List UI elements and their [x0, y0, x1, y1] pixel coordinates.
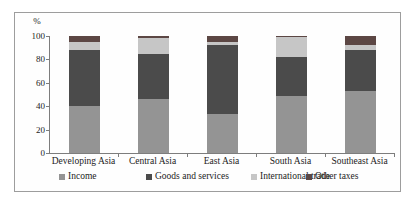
- segment-south-asia-income: [276, 96, 307, 153]
- legend-label-other-taxes: Other taxes: [315, 171, 359, 182]
- segment-east-asia-income: [207, 114, 238, 153]
- legend: IncomeGoods and servicesInternational tr…: [15, 171, 400, 187]
- legend-marker-income: [59, 174, 65, 180]
- bar-developing-asia: [69, 36, 100, 153]
- y-tick-label-40: 40: [19, 101, 45, 111]
- x-axis-label-developing-asia: Developing Asia: [49, 156, 118, 167]
- bar-slot-east-asia: [188, 36, 257, 153]
- x-tick-mark: [394, 154, 395, 157]
- legend-item-other-taxes: Other taxes: [306, 171, 359, 182]
- bar-slot-central-asia: [119, 36, 188, 153]
- bar-slot-developing-asia: [50, 36, 119, 153]
- segment-developing-asia-goods-and-services: [69, 50, 100, 106]
- y-axis-unit-label: %: [29, 16, 45, 26]
- x-axis-label-east-asia: East Asia: [187, 156, 256, 167]
- segment-southeast-asia-income: [345, 91, 376, 153]
- segment-southeast-asia-goods-and-services: [345, 50, 376, 91]
- y-tick-label-80: 80: [19, 54, 45, 64]
- x-axis-labels: Developing AsiaCentral AsiaEast AsiaSout…: [49, 156, 394, 167]
- chart-frame: % 020406080100 Developing AsiaCentral As…: [14, 12, 401, 192]
- segment-southeast-asia-other-taxes: [345, 36, 376, 45]
- plot-area: [49, 36, 395, 154]
- bar-east-asia: [207, 36, 238, 153]
- y-tick-label-100: 100: [19, 31, 45, 41]
- x-axis-label-southeast-asia: Southeast Asia: [325, 156, 394, 167]
- y-tick-label-60: 60: [19, 78, 45, 88]
- segment-developing-asia-income: [69, 106, 100, 153]
- bar-slot-south-asia: [257, 36, 326, 153]
- bar-southeast-asia: [345, 36, 376, 153]
- x-axis-label-central-asia: Central Asia: [118, 156, 187, 167]
- x-axis-label-south-asia: South Asia: [256, 156, 325, 167]
- segment-central-asia-goods-and-services: [138, 54, 169, 100]
- bar-south-asia: [276, 36, 307, 153]
- segment-south-asia-goods-and-services: [276, 57, 307, 96]
- y-tick-label-20: 20: [19, 125, 45, 135]
- legend-label-goods-and-services: Goods and services: [155, 171, 229, 182]
- legend-item-income: Income: [59, 171, 97, 182]
- legend-marker-other-taxes: [306, 174, 312, 180]
- legend-item-goods-and-services: Goods and services: [146, 171, 229, 182]
- bar-central-asia: [138, 36, 169, 153]
- segment-developing-asia-international-trade: [69, 42, 100, 50]
- bar-slot-southeast-asia: [326, 36, 395, 153]
- y-tick-label-0: 0: [19, 148, 45, 158]
- legend-marker-international-trade: [251, 174, 257, 180]
- legend-marker-goods-and-services: [146, 174, 152, 180]
- legend-label-income: Income: [68, 171, 97, 182]
- segment-east-asia-goods-and-services: [207, 45, 238, 114]
- segment-central-asia-income: [138, 99, 169, 153]
- chart-figure: % 020406080100 Developing AsiaCentral As…: [0, 0, 415, 202]
- segment-central-asia-international-trade: [138, 38, 169, 53]
- segment-south-asia-international-trade: [276, 37, 307, 57]
